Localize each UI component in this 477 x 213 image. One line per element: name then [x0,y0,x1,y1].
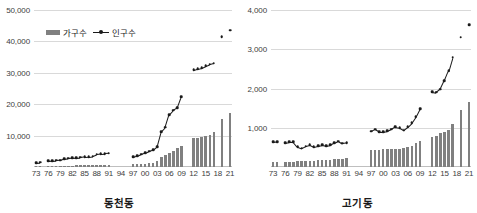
chart-panel-gogidong: 1,0002,0003,0004,000 7376798285889194970… [238,0,477,213]
data-point [229,29,232,32]
x-axis-tick-label: 94 [117,169,126,178]
bar [59,166,62,167]
data-point [140,153,143,156]
data-point [95,153,98,156]
x-axis-tick-label: 03 [153,169,162,178]
bar [272,162,275,167]
data-point [172,109,175,112]
data-point [468,24,471,27]
bar [79,165,82,167]
bar [47,166,50,167]
data-point [402,129,405,132]
x-axis-tick-label: 21 [465,169,474,178]
data-point [394,126,397,129]
bar [87,165,90,167]
bar [390,149,393,167]
bar [382,149,385,167]
bar [292,162,295,167]
legend-item-population: 인구수 [93,26,136,38]
bar [55,166,58,167]
line-marker-icon [93,30,109,35]
bar [99,165,102,167]
x-axis-tick-label: 88 [330,169,339,178]
x-axis-tick-label: 18 [452,169,461,178]
data-point [35,161,38,164]
data-point [439,88,442,91]
bar [435,136,438,167]
x-axis-tick-label: 73 [32,169,41,178]
bar [333,159,336,167]
data-point [192,69,195,72]
gridline [271,128,471,129]
data-point [329,144,332,147]
y-axis-tick-label: 10,000 [6,131,30,140]
bar [402,148,405,167]
x-axis-tick-label: 88 [92,169,101,178]
bar [152,163,155,167]
bar [415,143,418,167]
data-point [411,122,414,125]
bar [209,135,212,167]
data-point [208,63,211,66]
data-point [382,130,385,133]
bar [67,166,70,167]
data-point [152,149,155,152]
data-point [59,159,62,162]
bar [276,162,279,167]
bar [447,130,450,167]
panel-title: 동천동 [0,195,238,210]
data-point [308,144,311,147]
bar [108,165,111,167]
x-axis-tick-label: 73 [269,169,278,178]
bar [91,165,94,167]
x-axis-tick-label: 12 [428,169,437,178]
data-point [419,108,422,111]
x-axis-tick-label: 97 [367,169,376,178]
x-axis-tick-label: 09 [177,169,186,178]
bar [51,166,54,167]
data-point [292,141,295,144]
x-axis-tick-label: 91 [105,169,114,178]
data-point [164,126,167,129]
bar [313,161,316,167]
x-axis-tick-label: 76 [44,169,53,178]
x-axis-tick-label: 91 [342,169,351,178]
bar [75,165,78,167]
x-axis-tick-label: 00 [379,169,388,178]
gridline [34,136,232,137]
data-point [337,140,340,143]
bar [229,113,232,167]
bar [83,165,86,167]
data-point [91,155,94,158]
data-point [415,115,418,118]
bar [329,160,332,167]
data-point [83,156,86,159]
bar [35,166,38,167]
x-axis-tick-label: 79 [56,169,65,178]
data-point [51,159,54,162]
data-point [213,62,216,65]
bar [300,161,303,167]
bar [321,160,324,167]
x-axis-tick-label: 85 [318,169,327,178]
legend-label-population: 인구수 [112,26,136,38]
x-axis-tick-label: 82 [68,169,77,178]
bar [451,124,454,167]
data-point [168,113,171,116]
data-point [136,154,139,157]
data-point [103,152,106,155]
x-axis-tick-label: 09 [416,169,425,178]
x-axis-ticks: 7376798285889194970003060912151821 [271,169,471,183]
data-point [71,157,74,160]
x-axis-tick-label: 79 [293,169,302,178]
bar [144,164,147,167]
bar [386,149,389,167]
data-point [288,141,291,144]
bar [341,159,344,167]
gridline [271,49,471,50]
bar [95,165,98,167]
y-axis-tick-label: 20,000 [6,100,30,109]
data-point [221,35,224,38]
data-point [204,65,207,68]
data-point [75,156,78,159]
